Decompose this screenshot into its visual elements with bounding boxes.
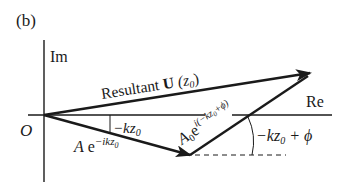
second-angle-arc bbox=[248, 117, 254, 155]
first-vector-label: A e−ikz0 bbox=[73, 135, 119, 155]
panel-label: (b) bbox=[16, 11, 36, 30]
second-vector-label: A0ei(−kz0+ϕ) bbox=[172, 97, 236, 150]
origin-label: O bbox=[20, 121, 32, 140]
second-angle-label: −kz0 + ϕ bbox=[256, 127, 312, 146]
phasor-diagram: (b) Im Re O Resultant U (z0) A e−ikz0 −k… bbox=[0, 0, 350, 189]
first-angle-label: −kz0 bbox=[113, 120, 141, 138]
imaginary-axis-label: Im bbox=[50, 48, 68, 65]
real-axis-label: Re bbox=[306, 93, 324, 110]
